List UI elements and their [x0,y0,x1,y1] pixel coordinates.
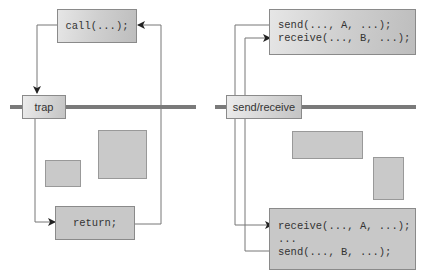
sender-process-box: send(..., A, ...); receive(..., B, ...); [269,9,416,55]
return-box-text: return; [73,217,117,230]
call-box-text: call(...); [65,20,128,33]
trap-label: trap [35,101,54,113]
memory-block [373,157,404,200]
receiver-process-box: receive(..., A, ...); ... send(..., B, .… [269,208,416,270]
call-box: call(...); [57,9,137,43]
call-to-trap-arrow [37,25,57,93]
trap-label-box: trap [22,95,66,119]
return-box: return; [55,206,135,240]
receive-b-line: receive(..., B, ...); [278,32,415,45]
send-b-to-receive-b-arrow [245,38,270,251]
memory-block [98,130,147,179]
memory-block [45,160,81,187]
send-a-to-receive-a-arrow [235,25,272,225]
send-b-line: send(..., B, ...); [278,246,415,259]
return-to-call-arrow [135,25,161,224]
send-receive-label-box: send/receive [226,95,302,119]
receive-a-line: receive(..., A, ...); [278,220,415,233]
send-receive-label: send/receive [233,101,295,113]
memory-block [292,131,363,159]
ellipsis-line: ... [278,233,415,246]
send-a-line: send(..., A, ...); [278,19,415,32]
